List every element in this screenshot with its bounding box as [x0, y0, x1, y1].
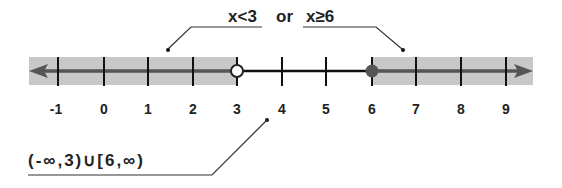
- open-endpoint-3: [231, 65, 243, 77]
- inequality-connector: or: [276, 7, 293, 26]
- tick-label: 1: [144, 101, 152, 117]
- tick-label: 4: [278, 101, 286, 117]
- tick-labels: -1 0 1 2 3 4 5 6 7 8 9: [50, 101, 510, 117]
- inequality-right: x≥6: [306, 7, 334, 26]
- title-callout: [166, 27, 405, 52]
- closed-endpoint-6: [366, 65, 379, 78]
- tick-label: 7: [412, 101, 420, 117]
- number-line-diagram: x<3 or x≥6 -1 0 1 2 3 4 5 6 7 8 9: [0, 0, 562, 188]
- tick-label: 2: [189, 101, 197, 117]
- tick-label: -1: [50, 101, 63, 117]
- tick-label: 3: [233, 101, 241, 117]
- tick-label: 9: [502, 101, 510, 117]
- tick-label: 0: [100, 101, 108, 117]
- tick-label: 5: [322, 101, 330, 117]
- interval-notation: (-∞,3)∪[6,∞): [28, 151, 145, 170]
- inequality-left: x<3: [228, 7, 257, 26]
- tick-label: 6: [368, 101, 376, 117]
- tick-label: 8: [457, 101, 465, 117]
